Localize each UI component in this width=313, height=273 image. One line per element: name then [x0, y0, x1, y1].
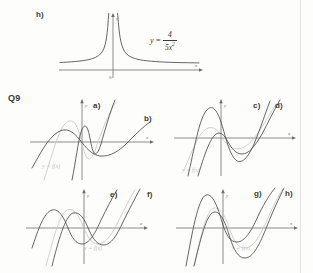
page-margin-rule [300, 0, 301, 273]
equation-fraction: 4 5x2 [163, 31, 177, 51]
svg-text:y = f(x): y = f(x) [83, 245, 102, 252]
svg-text:y: y [86, 193, 90, 198]
top-figure-graph: y x 0 [55, 12, 215, 82]
scanned-page: h) y x 0 y = 4 5x2 Q9 x y y = f(x) [0, 0, 313, 273]
curve-label-c: c) [253, 101, 261, 110]
curve-label-f: f) [147, 190, 153, 199]
svg-text:x: x [289, 221, 293, 226]
svg-text:x: x [194, 63, 198, 68]
panel-gh-graph: x y y = f(x) [172, 186, 312, 268]
svg-text:y: y [84, 103, 88, 108]
svg-text:0: 0 [109, 75, 112, 80]
fraction-numerator: 4 [166, 31, 174, 39]
curve-label-h: h) [285, 189, 293, 198]
svg-text:x: x [145, 135, 149, 140]
panel-ef-graph: x y y = f(x) [22, 186, 162, 268]
svg-text:y = f(x): y = f(x) [181, 167, 200, 174]
panel-cd-graph: x y y = f(x) [170, 96, 310, 182]
svg-text:x: x [139, 221, 143, 226]
equation-lhs: y = [150, 36, 161, 45]
svg-text:y: y [225, 193, 229, 198]
svg-text:x: x [287, 131, 291, 136]
fraction-denominator: 5x2 [163, 42, 177, 51]
curve-label-a: a) [93, 101, 101, 110]
part-label-h: h) [36, 10, 44, 19]
curve-label-b: b) [144, 114, 152, 123]
svg-text:y: y [223, 103, 227, 108]
curve-label-g: g) [254, 189, 262, 198]
top-figure-equation: y = 4 5x2 [150, 31, 177, 51]
curve-label-e: e) [110, 190, 118, 199]
question-number-q9: Q9 [8, 93, 20, 103]
svg-text:y = f(x): y = f(x) [41, 163, 60, 170]
curve-label-d: d) [275, 101, 283, 110]
